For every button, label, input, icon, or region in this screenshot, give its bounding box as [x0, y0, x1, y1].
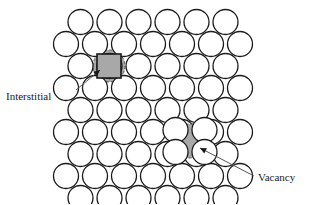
lattice-atom	[141, 164, 166, 189]
lattice-atom	[213, 10, 238, 35]
lattice-atom	[170, 32, 195, 57]
vacancy-neighbor-atom	[192, 118, 217, 143]
lattice-atom	[97, 98, 122, 123]
lattice-atom	[170, 164, 195, 189]
interstitial-label: Interstitial	[6, 91, 51, 102]
lattice-atom	[54, 32, 79, 57]
lattice-atom	[97, 10, 122, 35]
lattice-atom	[68, 10, 93, 35]
lattice-atom	[68, 142, 93, 167]
lattice-atom	[184, 186, 209, 205]
lattice-atom	[68, 54, 93, 79]
lattice-atom	[83, 32, 108, 57]
lattice-atom	[54, 164, 79, 189]
lattice-atom	[97, 186, 122, 205]
lattice-atom	[199, 32, 224, 57]
lattice-atom	[83, 164, 108, 189]
lattice-atom	[228, 76, 253, 101]
lattice-atom	[126, 10, 151, 35]
lattice-atom	[228, 164, 253, 189]
lattice-atom	[155, 186, 180, 205]
lattice-atom	[126, 98, 151, 123]
lattice-atom	[184, 10, 209, 35]
lattice-atom	[68, 186, 93, 205]
lattice-atom	[54, 76, 79, 101]
lattice-atom	[155, 54, 180, 79]
lattice-atom	[184, 54, 209, 79]
lattice-atom	[141, 76, 166, 101]
lattice-atom	[228, 120, 253, 145]
lattice-atom	[170, 76, 195, 101]
lattice-atom	[83, 120, 108, 145]
vacancy-label: Vacancy	[258, 172, 295, 183]
vacancy-neighbor-atom	[163, 118, 188, 143]
lattice-atom	[112, 76, 137, 101]
lattice-atom	[155, 10, 180, 35]
lattice-atom	[54, 120, 79, 145]
lattice-atom	[199, 164, 224, 189]
lattice-atom	[112, 164, 137, 189]
lattice-atom	[213, 186, 238, 205]
lattice-atom	[97, 142, 122, 167]
lattice-atom	[68, 98, 93, 123]
lattice-atom	[112, 120, 137, 145]
interstitial-atom-square	[97, 54, 121, 78]
atoms-layer	[54, 10, 253, 205]
lattice-atom	[213, 54, 238, 79]
lattice-atom	[126, 142, 151, 167]
vacancy-neighbor-atom	[163, 140, 188, 165]
lattice-atom	[141, 32, 166, 57]
lattice-atom	[141, 120, 166, 145]
lattice-atom	[126, 54, 151, 79]
lattice-atom	[228, 32, 253, 57]
crystal-defect-figure: Interstitial Vacancy	[0, 0, 312, 204]
lattice-atom	[83, 76, 108, 101]
lattice-atom	[199, 76, 224, 101]
lattice-atom	[126, 186, 151, 205]
lattice-atom	[112, 32, 137, 57]
lattice-atom	[213, 98, 238, 123]
